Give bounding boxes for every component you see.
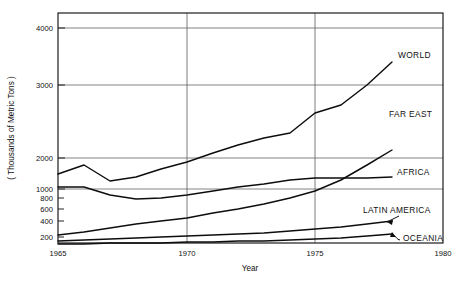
y-tick-label-200: 200 — [40, 233, 53, 242]
line-chart: 4000 3000 2000 1000 800 600 400 200 1965… — [0, 0, 462, 284]
series-label-africa: AFRICA — [397, 167, 430, 177]
chart-figure: 4000 3000 2000 1000 800 600 400 200 1965… — [0, 0, 462, 284]
x-tick-label-1970: 1970 — [179, 249, 196, 258]
y-tick-label-2000: 2000 — [36, 154, 53, 163]
series-label-latin-america: LATIN AMERICA — [363, 205, 431, 215]
x-tick-label-1980: 1980 — [435, 249, 452, 258]
y-tick-label-800: 800 — [40, 194, 53, 203]
x-axis-title: Year — [242, 264, 259, 273]
y-tick-label-3000: 3000 — [36, 81, 53, 90]
y-tick-label-1000: 1000 — [36, 185, 53, 194]
y-axis-title: ( Thousands of Metric Tons ) — [7, 76, 16, 180]
y-tick-label-600: 600 — [40, 205, 53, 214]
y-tick-label-4000: 4000 — [36, 24, 53, 33]
y-tick-label-400: 400 — [40, 217, 53, 226]
series-label-world: WORLD — [398, 50, 431, 60]
series-label-far-east: FAR EAST — [389, 109, 432, 119]
x-tick-label-1975: 1975 — [307, 249, 324, 258]
x-tick-label-1965: 1965 — [50, 249, 67, 258]
series-label-oceania: OCEANIA — [403, 233, 443, 243]
